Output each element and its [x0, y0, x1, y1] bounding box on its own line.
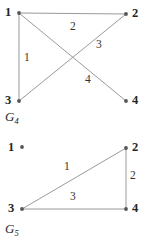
edge-label-g4-1-3: 1 [24, 52, 30, 64]
caption-g4: G4 [5, 110, 19, 123]
edge-label-g4-1-2: 2 [70, 21, 76, 33]
vertex-label-g4-4: 4 [132, 94, 138, 107]
node-g4-2 [124, 12, 128, 16]
vertex-label-g5-2: 2 [132, 141, 138, 154]
edge-label-g5-3-2: 1 [64, 161, 70, 173]
edge-label-g4-1-4: 4 [85, 74, 91, 86]
caption-g5-name: G [5, 221, 14, 236]
caption-g4-name: G [5, 109, 14, 124]
node-g4-1 [17, 11, 21, 15]
caption-g4-subscript: 4 [14, 116, 18, 126]
caption-g5-subscript: 5 [14, 228, 18, 238]
caption-g5: G5 [5, 222, 19, 235]
node-g5-2 [124, 146, 128, 150]
node-g4-4 [124, 99, 128, 103]
vertex-label-g4-3: 3 [5, 94, 11, 107]
edge-label-g4-3-2: 3 [96, 39, 102, 51]
edge-label-g5-2-4: 2 [130, 170, 136, 182]
edge-label-g5-3-4: 3 [70, 191, 76, 203]
node-g5-1 [20, 145, 24, 149]
graph-figure: 1 2 3 4 2 1 4 3 G4 1 2 3 4 1 2 3 G5 [0, 0, 149, 247]
graph-drawing-canvas [0, 0, 149, 247]
node-g5-4 [124, 207, 128, 211]
node-g4-3 [17, 99, 21, 103]
vertex-label-g5-3: 3 [8, 202, 14, 215]
node-g5-3 [20, 207, 24, 211]
vertex-label-g5-4: 4 [132, 202, 138, 215]
vertex-label-g5-1: 1 [8, 141, 14, 154]
vertex-label-g4-2: 2 [132, 7, 138, 20]
vertex-label-g4-1: 1 [5, 6, 11, 19]
edge-g4-1-2 [19, 13, 126, 14]
